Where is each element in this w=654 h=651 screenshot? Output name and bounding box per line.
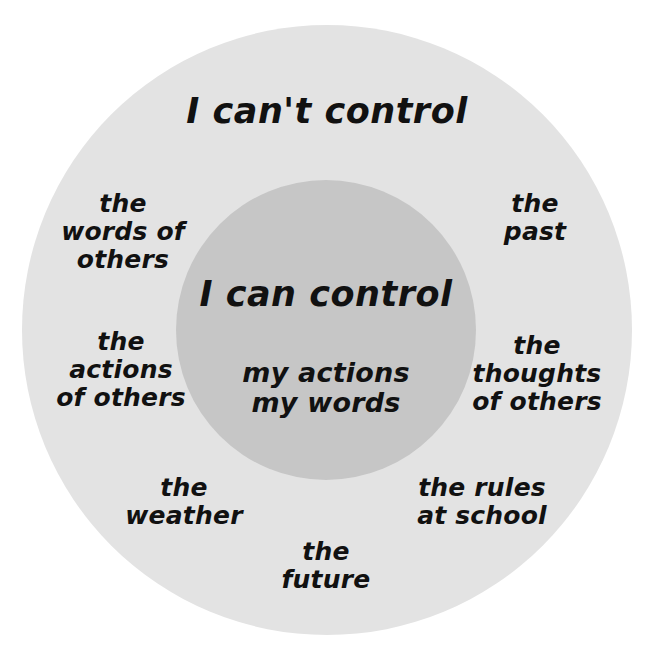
outer-item-words-of-others: the words of others bbox=[38, 190, 208, 274]
inner-items-list: my actions my words bbox=[176, 358, 476, 418]
outer-circle-heading: I can't control bbox=[0, 92, 654, 131]
outer-item-the-weather: the weather bbox=[92, 474, 276, 530]
circle-of-control-diagram: I can't control the words of others the … bbox=[0, 0, 654, 651]
inner-circle-heading: I can control bbox=[176, 275, 476, 314]
outer-item-rules-at-school: the rules at school bbox=[388, 474, 576, 530]
outer-item-the-future: the future bbox=[240, 538, 412, 594]
outer-item-the-past: the past bbox=[450, 190, 620, 246]
inner-circle-can-control bbox=[176, 180, 476, 480]
